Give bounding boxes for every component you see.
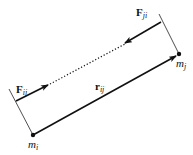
m-j-label-main: m [176, 57, 184, 69]
f-ji-label-sub: ji [143, 11, 147, 20]
right-reference-line [159, 14, 179, 54]
f-ij-label: Fij [16, 84, 27, 97]
f-ij-label-main: F [16, 83, 23, 95]
f-ji-vector [125, 22, 161, 43]
m-i-label-sub: i [36, 143, 38, 152]
dotted-connector [50, 44, 125, 84]
mass-i-dot [31, 133, 35, 137]
mass-j-dot [177, 52, 181, 56]
f-ij-label-sub: ij [23, 88, 27, 97]
r-ij-label-sub: ij [100, 85, 104, 94]
r-ij-vector [33, 56, 176, 135]
r-ij-label: rij [95, 81, 104, 94]
m-i-label-main: m [28, 138, 36, 150]
f-ji-label-main: F [136, 6, 143, 18]
force-diagram [0, 0, 193, 155]
m-j-label-sub: j [184, 62, 186, 71]
m-j-label: mj [176, 58, 186, 71]
m-i-label: mi [28, 139, 38, 152]
f-ji-label: Fji [136, 7, 147, 20]
